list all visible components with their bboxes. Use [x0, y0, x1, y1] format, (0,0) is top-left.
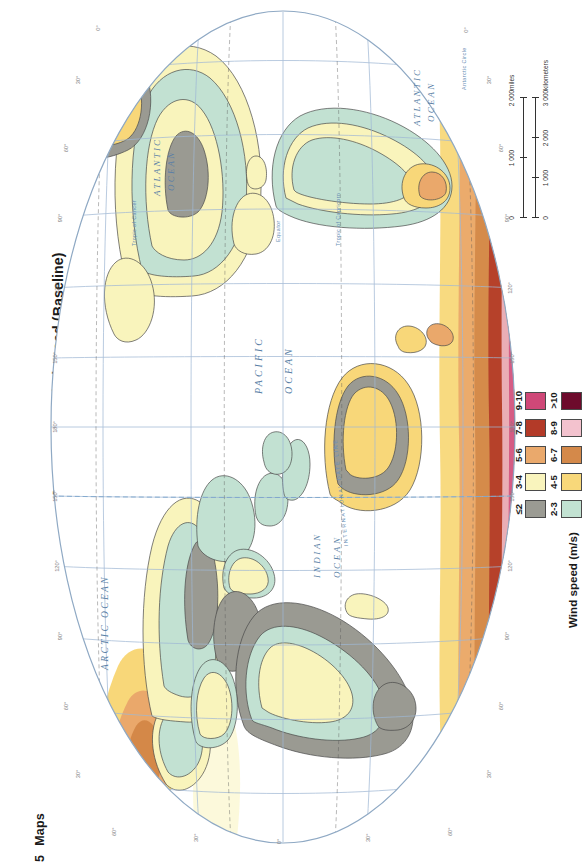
legend-item[interactable]: 9-10 — [513, 391, 547, 410]
legend-item-label: 5-6 — [513, 448, 524, 462]
reference-line-tropic-capricorn: Tropic of Capricorn — [335, 193, 341, 246]
scale-label: 3 000 — [542, 90, 549, 107]
legend-item[interactable]: ≤2 — [513, 500, 547, 518]
legend-item[interactable]: 7-8 — [513, 419, 547, 437]
longitude-label: 60° — [63, 144, 69, 152]
legend-item-label: >10 — [548, 392, 559, 408]
longitude-label-date-line: 180° — [52, 421, 58, 433]
scale-label: 1 000 — [542, 170, 549, 187]
ocean-label-arctic: ARCTIC OCEAN — [100, 575, 110, 671]
legend-item[interactable]: 6-7 — [548, 446, 582, 464]
map-legend: Wind speed (m/s) ≤2 2-3 3-4 4-5 5-6 — [516, 238, 582, 628]
legend-item[interactable]: 3-4 — [513, 473, 547, 491]
scale-label: 0 — [542, 216, 549, 220]
ocean-label-atlantic-south: ATLANTIC — [412, 68, 422, 127]
longitude-label: 30° — [75, 76, 81, 84]
map-scale-bar: 0 1 000 2 000 miles — [508, 62, 582, 222]
longitude-label: 120° — [507, 560, 513, 572]
longitude-label: 0° — [95, 25, 101, 30]
longitude-label: 120° — [507, 282, 513, 294]
longitude-label: 0° — [463, 27, 469, 32]
legend-item[interactable]: 2-3 — [548, 500, 582, 518]
chapter-number: 5 — [33, 855, 47, 862]
latitude-label: 0° — [276, 839, 282, 844]
scale-unit-miles: miles — [508, 75, 515, 90]
longitude-label: 30° — [486, 770, 492, 778]
ocean-label-atlantic-north: ATLANTIC — [152, 138, 162, 197]
scale-miles-ticks — [520, 62, 527, 222]
legend-swatch-grid: ≤2 2-3 3-4 4-5 5-6 6-7 — [513, 391, 582, 518]
reference-line-antarctic-circle: Antarctic Circle — [461, 47, 467, 90]
latitude-label: 30° — [193, 834, 199, 842]
scale-unit-kilometers: kilometers — [542, 60, 549, 90]
scale-label: 1 000 — [508, 150, 515, 167]
legend-item-swatch — [561, 473, 582, 491]
map-rotation-wrapper: ARCTIC OCEAN ATLANTIC OCEAN PACIFIC OCEA… — [48, 8, 518, 846]
latitude-label: 30° — [365, 834, 371, 842]
legend-item-swatch — [561, 392, 582, 410]
legend-item[interactable]: 5-6 — [513, 446, 547, 464]
latitude-label: 60° — [447, 828, 453, 836]
latitude-label: 60° — [111, 828, 117, 836]
longitude-label: 30° — [75, 770, 81, 778]
longitude-label: 90° — [57, 214, 63, 222]
world-map: ARCTIC OCEAN ATLANTIC OCEAN PACIFIC OCEA… — [48, 8, 518, 846]
legend-item-swatch — [561, 419, 582, 437]
longitude-label: 120° — [54, 282, 60, 294]
ocean-label-indian: INDIAN — [312, 532, 322, 579]
legend-item-label: 6-7 — [548, 448, 559, 462]
longitude-label: 150° — [52, 490, 58, 502]
scale-label: 2 000 — [508, 90, 515, 107]
scale-miles-labels: 0 1 000 2 000 miles — [508, 62, 518, 222]
legend-item[interactable]: 8-9 — [548, 419, 582, 437]
longitude-label: 60° — [498, 144, 504, 152]
longitude-label: 60° — [63, 702, 69, 710]
ocean-label-atlantic-south-2: OCEAN — [426, 81, 436, 122]
legend-item[interactable]: 4-5 — [548, 473, 582, 491]
legend-item-label: 2-3 — [548, 502, 559, 516]
reference-line-tropic-cancer: Tropic of Cancer — [131, 200, 137, 246]
longitude-label: 120° — [54, 560, 60, 572]
scale-bar-inner: 0 1 000 2 000 miles — [508, 62, 582, 222]
longitude-label: 90° — [504, 632, 510, 640]
map-panel: ARCTIC OCEAN ATLANTIC OCEAN PACIFIC OCEA… — [48, 8, 518, 846]
legend-item-label: ≤2 — [513, 504, 524, 515]
ocean-label-pacific: PACIFIC — [253, 336, 264, 395]
longitude-label: 60° — [498, 702, 504, 710]
longitude-label: 30° — [486, 76, 492, 84]
reference-line-equator: Equator — [275, 220, 281, 242]
legend-item-swatch — [525, 473, 546, 491]
longitude-label: 150° — [52, 352, 58, 364]
ocean-label-atlantic-north-2: OCEAN — [166, 150, 176, 191]
legend-item-label: 4-5 — [548, 475, 559, 489]
legend-item-swatch — [525, 500, 546, 518]
scale-label: 0 — [508, 216, 515, 220]
page-header: 5 Maps — [33, 742, 47, 862]
legend-item-swatch — [525, 392, 546, 410]
legend-item-label: 7-8 — [513, 421, 524, 435]
longitude-label: 90° — [57, 632, 63, 640]
legend-item-label: 8-9 — [548, 421, 559, 435]
legend-item-swatch — [561, 446, 582, 464]
scale-km-labels: 0 1 000 2 000 3 000 kilometers — [542, 62, 552, 222]
scale-km-ticks — [532, 62, 539, 222]
ocean-label-indian-2: OCEAN — [332, 535, 342, 578]
legend-title: Wind speed (m/s) — [566, 532, 579, 628]
ocean-label-pacific-2: OCEAN — [283, 346, 294, 394]
legend-item-swatch — [525, 446, 546, 464]
scale-label: 2 000 — [542, 130, 549, 147]
legend-inner: Wind speed (m/s) ≤2 2-3 3-4 4-5 5-6 — [516, 238, 582, 628]
legend-item-label: 3-4 — [513, 475, 524, 489]
legend-item[interactable]: >10 — [548, 391, 582, 410]
longitude-label: 150° — [509, 352, 515, 364]
legend-item-label: 9-10 — [513, 391, 524, 410]
legend-item-swatch — [561, 500, 582, 518]
legend-item-swatch — [525, 419, 546, 437]
chapter-name: Maps — [33, 813, 47, 846]
